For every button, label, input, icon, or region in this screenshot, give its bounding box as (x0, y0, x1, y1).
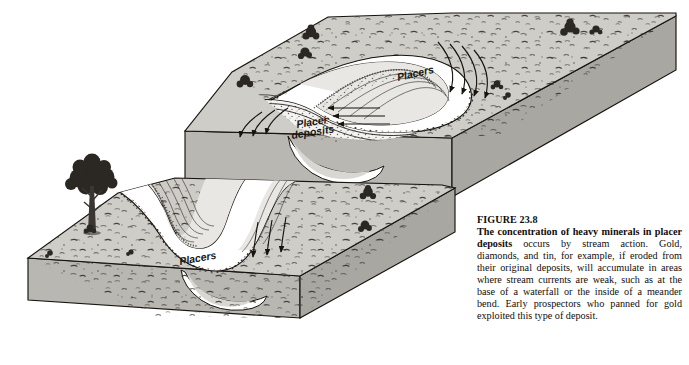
figure-caption: FIGURE 23.8The concentration of heavy mi… (477, 214, 682, 322)
figure-page: Placers Placer deposits (0, 0, 689, 365)
figure-caption-body: occurs by stream action. Gold, diamonds,… (477, 238, 682, 320)
figure-number: FIGURE 23.8 (477, 214, 682, 226)
upper-block-diagram: Placers Placer deposits (180, 10, 680, 197)
